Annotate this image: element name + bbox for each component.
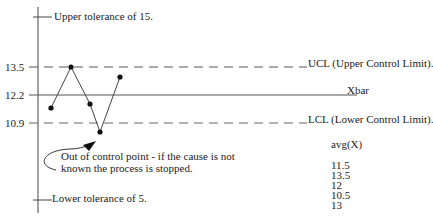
upper-tolerance-label: Upper tolerance of 15. bbox=[54, 10, 153, 22]
data-point bbox=[48, 105, 53, 110]
control-chart bbox=[0, 0, 433, 218]
data-point bbox=[87, 101, 92, 106]
data-point bbox=[68, 64, 73, 69]
table-header: avg(X) bbox=[331, 138, 362, 150]
avg-x-table: 11.5 13.5 12 10.5 13 bbox=[331, 160, 350, 210]
ucl-label: UCL (Upper Control Limit). bbox=[308, 57, 433, 69]
annotation-line-1: Out of control point - if the cause is n… bbox=[61, 150, 235, 162]
data-point bbox=[117, 74, 122, 79]
data-point-out-of-control bbox=[97, 129, 102, 134]
xbar-label: Xbar bbox=[347, 84, 369, 96]
avg-x-series-line bbox=[51, 67, 120, 132]
ytick-xbar: 12.2 bbox=[5, 89, 24, 101]
lower-tolerance-label: Lower tolerance of 5. bbox=[52, 192, 147, 204]
ytick-ucl: 13.5 bbox=[5, 61, 24, 73]
lcl-label: LCL (Lower Control Limit). bbox=[308, 113, 433, 125]
ytick-lcl: 10.9 bbox=[5, 117, 24, 129]
table-value: 13 bbox=[331, 200, 350, 210]
annotation-line-2: known the process is stopped. bbox=[61, 162, 193, 174]
